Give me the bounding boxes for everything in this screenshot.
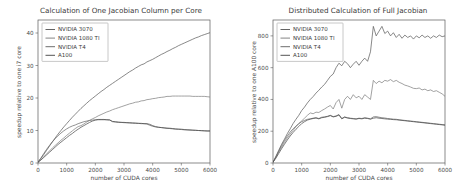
right-xticks: 0100020003000400050006000 [271, 163, 452, 173]
left-xtick-label: 4000 [146, 167, 161, 173]
left-yticks: 010203040 [26, 30, 38, 166]
left-chart-panel: Calculation of One Jacobian Column per C… [0, 0, 235, 191]
right-xtick-label: 6000 [438, 167, 453, 173]
right-plot-area: 0100020003000400050006000 0200400600800 … [258, 20, 453, 173]
right-series-line-2 [273, 115, 445, 163]
right-chart-panel: Distributed Calculation of Full Jacobian… [235, 0, 470, 191]
right-legend-label-1: NVIDIA 1080 TI [293, 35, 335, 41]
right-chart-title: Distributed Calculation of Full Jacobian [289, 6, 428, 15]
right-ytick-label: 400 [258, 96, 269, 102]
left-xticks: 0100020003000400050006000 [36, 163, 217, 173]
right-legend: NVIDIA 3070NVIDIA 1080 TINVIDIA T4A100 [277, 23, 343, 61]
right-legend-label-3: A100 [293, 52, 308, 58]
right-legend-label-2: NVIDIA T4 [293, 44, 321, 50]
right-legend-label-0: NVIDIA 3070 [293, 26, 328, 32]
right-xtick-label: 0 [271, 167, 275, 173]
right-xtick-label: 3000 [352, 167, 367, 173]
right-xtick-label: 2000 [323, 167, 338, 173]
left-legend: NVIDIA 3070NVIDIA 1080 TINVIDIA T4A100 [42, 23, 108, 61]
left-plot-area: 0100020003000400050006000 010203040 NVID… [26, 20, 217, 173]
right-ytick-label: 0 [265, 160, 269, 166]
left-xtick-label: 1000 [60, 167, 75, 173]
left-ytick-label: 10 [26, 128, 34, 134]
left-legend-label-3: A100 [58, 52, 73, 58]
left-xtick-label: 5000 [174, 167, 189, 173]
right-series-line-1 [273, 80, 445, 163]
right-xaxis-label: number of CUDA cores [326, 175, 393, 181]
right-xtick-label: 4000 [381, 167, 396, 173]
left-xaxis-label: number of CUDA cores [91, 175, 158, 181]
left-series-line-2 [38, 120, 210, 162]
left-xtick-label: 0 [36, 167, 40, 173]
right-xtick-label: 1000 [295, 167, 310, 173]
left-legend-label-2: NVIDIA T4 [58, 44, 86, 50]
right-ytick-label: 800 [258, 33, 269, 39]
left-legend-label-1: NVIDIA 1080 TI [58, 35, 100, 41]
right-ytick-label: 600 [258, 65, 269, 71]
left-legend-label-0: NVIDIA 3070 [58, 26, 93, 32]
right-yaxis-label: speedup relative to one A100 core [251, 41, 258, 143]
right-chart-svg: Distributed Calculation of Full Jacobian… [235, 0, 470, 191]
left-xtick-label: 2000 [88, 167, 103, 173]
right-xtick-label: 5000 [409, 167, 424, 173]
right-series-line-3 [273, 115, 445, 162]
right-yticks: 0200400600800 [258, 33, 273, 166]
figure-container: Calculation of One Jacobian Column per C… [0, 0, 470, 191]
left-ytick-label: 20 [26, 95, 34, 101]
left-series-line-1 [38, 96, 210, 162]
right-ytick-label: 200 [258, 128, 269, 134]
left-chart-title: Calculation of One Jacobian Column per C… [40, 6, 202, 15]
left-series-line-3 [38, 119, 210, 162]
left-chart-svg: Calculation of One Jacobian Column per C… [0, 0, 235, 191]
left-ytick-label: 30 [26, 63, 34, 69]
left-xtick-label: 3000 [117, 167, 132, 173]
left-ytick-label: 40 [26, 30, 34, 36]
left-yaxis-label: speedup relative to one i7 core [16, 46, 23, 138]
left-xtick-label: 6000 [203, 167, 218, 173]
left-ytick-label: 0 [30, 160, 34, 166]
